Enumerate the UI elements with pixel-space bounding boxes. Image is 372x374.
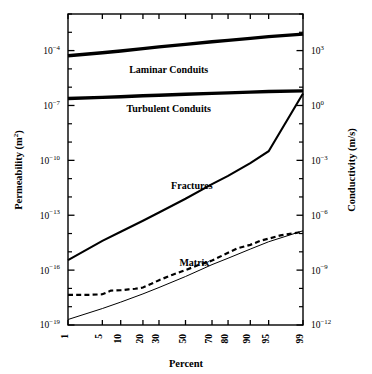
x-axis-tick-label: 70 [204,334,214,344]
chart-canvas: 10−410−710−1010−1310−1610−19 10310010−31… [0,0,372,374]
x-axis-tick-label: 5 [94,334,104,339]
x-axis-tick-label: 1 [60,334,70,339]
curve-label: Matrix [179,257,209,268]
x-axis-tick-label: 90 [242,334,252,344]
x-axis-tick-label: 99 [295,334,305,344]
x-axis-tick-label: 30 [151,334,161,344]
curve-label: Fractures [171,180,213,191]
curve-label: Laminar Conduits [129,64,208,75]
y-axis-left-title: Permeability (m2) [12,130,25,210]
permeability-conductivity-chart: 10−410−710−1010−1310−1610−19 10310010−31… [0,0,372,374]
x-axis-tick-label: 20 [135,334,145,344]
y-axis-right-title: Conductivity (m/s) [346,128,358,212]
x-axis-tick-label: 10 [113,334,123,344]
x-axis-tick-label: 80 [220,334,230,344]
x-axis-title: Percent [169,358,204,369]
curve-label: Turbulent Conduits [127,103,211,114]
x-axis-tick-label: 50 [178,334,188,344]
x-axis-tick-label: 95 [261,334,271,344]
